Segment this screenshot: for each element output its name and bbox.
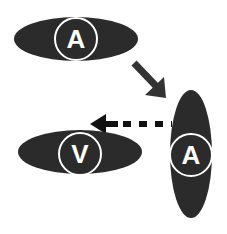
solid-arrow xyxy=(134,63,166,98)
node-right: A xyxy=(170,90,212,218)
node-bottom-left: V xyxy=(18,130,142,175)
node-label: A xyxy=(67,24,86,54)
diagram-canvas: A V A xyxy=(0,0,227,234)
arrow-shaft xyxy=(134,63,156,86)
dashed-arrow xyxy=(90,114,172,134)
node-label: V xyxy=(71,139,89,169)
node-top: A xyxy=(14,17,138,61)
node-label: A xyxy=(182,140,201,170)
